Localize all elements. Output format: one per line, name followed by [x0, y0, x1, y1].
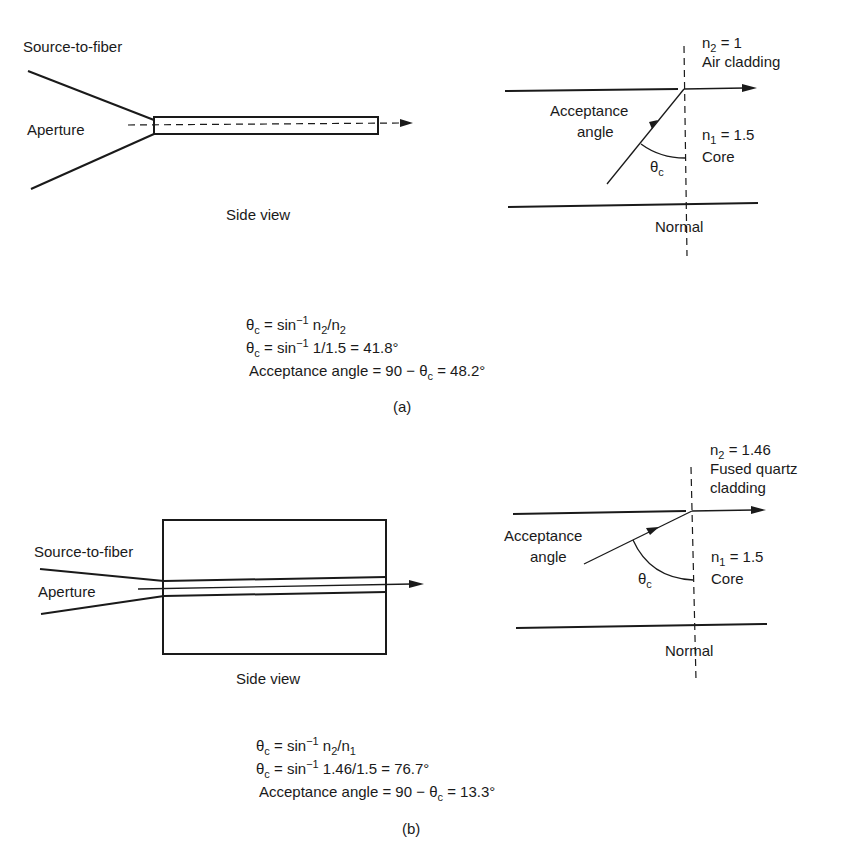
- fiber-core-rect: [154, 117, 378, 134]
- aperture-upper-line: [40, 569, 164, 581]
- cladding-boundary-bottom: [508, 203, 758, 207]
- panel-a-equations: θc = sin−1 n2/n2 θc = sin−1 1/1.5 = 41.8…: [246, 314, 485, 415]
- equation-3: Acceptance angle = 90 − θc = 13.3°: [259, 783, 495, 803]
- n1-label: n1 = 1.5: [711, 548, 763, 568]
- source-to-fiber-label: Source-to-fiber: [23, 38, 122, 55]
- refracted-ray: [692, 510, 754, 511]
- cladding-boundary-bottom: [516, 624, 767, 628]
- fiber-acceptance-diagram: Source-to-fiber Aperture Side view n2 = …: [0, 0, 849, 864]
- core-lower-boundary: [164, 592, 386, 596]
- cladding-label: cladding: [710, 479, 766, 496]
- equation-2: θc = sin−1 1.46/1.5 = 76.7°: [256, 758, 429, 780]
- n2-label: n2 = 1: [702, 34, 742, 54]
- optical-axis-dashed: [128, 123, 400, 125]
- panel-a-side-view: Source-to-fiber Aperture Side view: [23, 38, 413, 223]
- panel-a-interface: n2 = 1 Air cladding Acceptance angle n1 …: [505, 34, 780, 256]
- panel-b-interface: n2 = 1.46 Fused quartz cladding Acceptan…: [504, 441, 798, 680]
- source-to-fiber-label: Source-to-fiber: [34, 543, 133, 560]
- panel-b: Source-to-fiber Aperture Side view n2 = …: [34, 441, 798, 837]
- side-view-caption: Side view: [226, 206, 290, 223]
- aperture-upper-line: [28, 71, 154, 120]
- panel-b-side-view: Source-to-fiber Aperture Side view: [34, 520, 424, 687]
- normal-label: Normal: [665, 642, 713, 659]
- panel-a: Source-to-fiber Aperture Side view n2 = …: [23, 34, 780, 415]
- acceptance-label-line1: Acceptance: [550, 102, 628, 119]
- panel-a-caption: (a): [393, 398, 411, 415]
- refracted-ray: [684, 88, 745, 89]
- panel-b-equations: θc = sin−1 n2/n1 θc = sin−1 1.46/1.5 = 7…: [256, 735, 495, 837]
- core-label: Core: [711, 570, 744, 587]
- theta-c-label: θc: [650, 158, 664, 178]
- arrow-head-icon: [409, 580, 424, 588]
- cladding-boundary-top: [505, 89, 678, 91]
- incident-ray: [584, 511, 692, 564]
- core-label: Core: [702, 148, 735, 165]
- arrow-head-icon: [400, 119, 413, 127]
- normal-label: Normal: [655, 218, 703, 235]
- theta-c-arc: [641, 144, 685, 158]
- equation-3: Acceptance angle = 90 − θc = 48.2°: [249, 362, 485, 382]
- acceptance-label-line1: Acceptance: [504, 527, 582, 544]
- equation-1: θc = sin−1 n2/n2: [246, 314, 346, 336]
- n1-label: n1 = 1.5: [702, 126, 754, 146]
- aperture-label: Aperture: [38, 583, 96, 600]
- n2-label: n2 = 1.46: [710, 441, 771, 461]
- ray-arrow-icon: [646, 527, 659, 535]
- equation-2: θc = sin−1 1/1.5 = 41.8°: [246, 337, 399, 359]
- aperture-lower-line: [31, 134, 154, 189]
- theta-c-label: θc: [638, 570, 652, 590]
- core-upper-boundary: [164, 577, 386, 581]
- optical-axis: [138, 584, 412, 589]
- equation-1: θc = sin−1 n2/n1: [256, 735, 356, 757]
- cladding-boundary-top: [513, 511, 686, 514]
- acceptance-label-line2: angle: [530, 548, 567, 565]
- acceptance-label-line2: angle: [577, 123, 614, 140]
- fused-quartz-label: Fused quartz: [710, 460, 798, 477]
- refracted-arrow-head-icon: [751, 506, 766, 514]
- panel-b-caption: (b): [402, 820, 420, 837]
- side-view-caption: Side view: [236, 670, 300, 687]
- air-cladding-label: Air cladding: [702, 53, 780, 70]
- aperture-label: Aperture: [27, 121, 85, 138]
- refracted-arrow-head-icon: [742, 84, 757, 92]
